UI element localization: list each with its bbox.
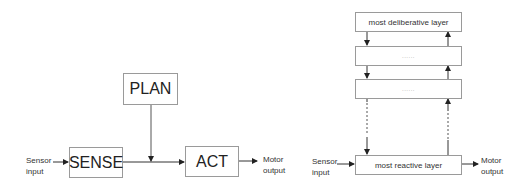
plan-label: PLAN — [130, 80, 172, 98]
sense-box: SENSE — [69, 147, 123, 178]
right-sensor-input-label: Sensor input — [312, 156, 337, 178]
sense-label: SENSE — [69, 154, 123, 172]
act-label: ACT — [196, 153, 228, 171]
right-motor-output-label: Motor output — [481, 155, 503, 177]
act-box: ACT — [185, 146, 239, 177]
layer-most-reactive: most reactive layer — [355, 155, 462, 175]
layer-most-deliberative: most deliberative layer — [355, 12, 462, 32]
layer-intermediate-2: ...... — [355, 79, 462, 99]
left-sensor-input-label: Sensor input — [26, 155, 51, 177]
left-motor-output-label: Motor output — [263, 154, 285, 176]
plan-box: PLAN — [123, 73, 178, 105]
layer-intermediate-1: ...... — [355, 46, 462, 66]
